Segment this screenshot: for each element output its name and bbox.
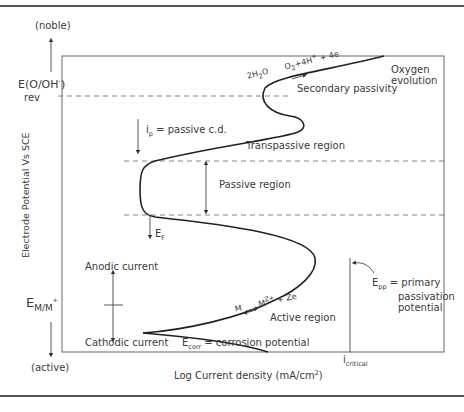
e-o-oh-rev-sub: rev [24, 92, 40, 103]
i-critical-label: icritical [343, 354, 368, 368]
anodic-current-label: Anodic current [85, 261, 158, 272]
ecorr-label: Ecorr = corrosion potential [182, 337, 310, 351]
flade-potential-label: EF [155, 228, 165, 242]
active-region-label: Active region [270, 312, 336, 323]
x-axis-label: Log Current density (mA/cm2) [174, 370, 323, 381]
cathodic-current-label: Cathodic current [85, 337, 168, 348]
noble-label: (noble) [35, 20, 71, 31]
epp-label: Epp = primary passivation potential [372, 277, 455, 313]
passive-region-label: Passive region [219, 179, 291, 190]
y-axis-label: Electrode Potential Vs SCE [21, 125, 31, 265]
transpassive-label: Transpassive region [246, 140, 345, 151]
passive-cd-label: ip = passive c.d. [146, 124, 227, 138]
e-o-oh-rev-label: E(O/OH-) [18, 78, 65, 91]
oxygen-evolution-label: Oxygen evolution [391, 64, 437, 86]
epp-pointer-arrow [354, 263, 374, 273]
e-m-m-label: EM/M+ [26, 296, 58, 310]
active-label: (active) [31, 362, 69, 373]
secondary-passivity-label: Secondary passivity [297, 83, 397, 94]
anodic-polarization-curve [140, 56, 384, 333]
